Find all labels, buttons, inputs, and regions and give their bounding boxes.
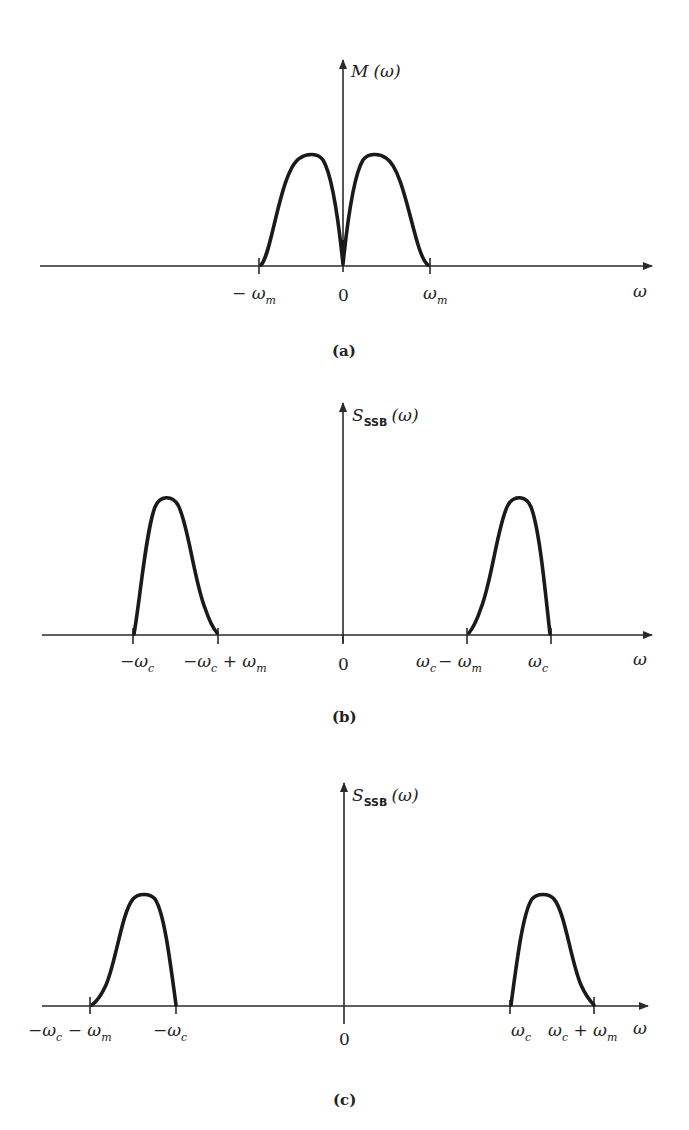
caption-a: (a) <box>332 342 356 360</box>
x-label-c: ω <box>633 1018 647 1038</box>
panel-b: SSSB(ω) −ωc −ωc + ωm 0 ωc− ωm ωc ω (b) <box>42 403 652 726</box>
y-label-b: SSSB(ω) <box>352 405 419 429</box>
tick-label-wc-plus-wm: ωc + ωm <box>548 1020 617 1044</box>
ssb-spectra-figure: M(ω) − ωm 0 ωm ω (a) SSSB(ω) −ωc −ωc + ω… <box>0 0 689 1130</box>
panel-a: M(ω) − ωm 0 ωm ω (a) <box>40 60 652 360</box>
x-label-b: ω <box>633 649 647 669</box>
tick-label-neg-wc-b: −ωc <box>120 651 154 675</box>
tick-label-zero-a: 0 <box>338 285 349 305</box>
usb-negative-lobe <box>92 895 176 1006</box>
tick-label-zero-b: 0 <box>338 654 349 674</box>
tick-label-wc-c: ωc <box>511 1020 531 1044</box>
lsb-positive-lobe <box>469 498 550 634</box>
y-label-c: SSSB(ω) <box>352 785 419 809</box>
tick-label-zero-c: 0 <box>339 1029 350 1049</box>
usb-positive-lobe <box>511 895 594 1006</box>
tick-label-neg-wc-plus-wm: −ωc + ωm <box>183 651 267 675</box>
y-label-a: M(ω) <box>350 61 401 81</box>
lsb-negative-lobe <box>134 498 217 634</box>
panel-c: SSSB(ω) −ωc − ωm −ωc 0 ωc ωc + ωm ω (c) <box>28 783 648 1109</box>
tick-label-wm: ωm <box>423 283 447 307</box>
x-label-a: ω <box>633 281 647 301</box>
tick-label-wc-minus-wm: ωc− ωm <box>416 651 482 675</box>
tick-label-neg-wm: − ωm <box>232 283 276 307</box>
tick-label-wc-b: ωc <box>528 651 548 675</box>
caption-c: (c) <box>333 1091 356 1109</box>
tick-label-neg-wc-c: −ωc <box>153 1020 187 1044</box>
tick-label-neg-wc-minus-wm: −ωc − ωm <box>28 1020 112 1044</box>
caption-b: (b) <box>332 708 357 726</box>
